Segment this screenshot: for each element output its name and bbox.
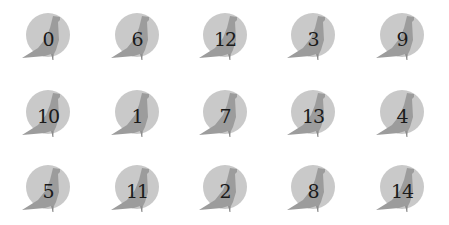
tile-number: 13 (283, 105, 343, 127)
bird-tile-1[interactable]: 1 (107, 87, 167, 147)
bird-tile-12[interactable]: 12 (195, 10, 255, 70)
bird-tile-11[interactable]: 11 (107, 162, 167, 222)
tile-number: 1 (107, 105, 167, 127)
bird-tile-13[interactable]: 13 (283, 87, 343, 147)
bird-tile-4[interactable]: 4 (372, 87, 432, 147)
tile-number: 6 (107, 28, 167, 50)
tile-number: 14 (372, 180, 432, 202)
bird-tile-5[interactable]: 5 (18, 162, 78, 222)
bird-tile-6[interactable]: 6 (107, 10, 167, 70)
bird-tile-0[interactable]: 0 (18, 10, 78, 70)
bird-tile-8[interactable]: 8 (283, 162, 343, 222)
bird-tile-14[interactable]: 14 (372, 162, 432, 222)
tile-number: 4 (372, 105, 432, 127)
icon-grid: 0 6 12 3 9 (0, 0, 449, 225)
tile-number: 11 (107, 180, 167, 202)
tile-number: 12 (195, 28, 255, 50)
tile-number: 8 (283, 180, 343, 202)
tile-number: 10 (18, 105, 78, 127)
tile-number: 3 (283, 28, 343, 50)
bird-tile-9[interactable]: 9 (372, 10, 432, 70)
tile-number: 0 (18, 28, 78, 50)
bird-tile-10[interactable]: 10 (18, 87, 78, 147)
bird-tile-2[interactable]: 2 (195, 162, 255, 222)
tile-number: 5 (18, 180, 78, 202)
tile-number: 9 (372, 28, 432, 50)
tile-number: 7 (195, 105, 255, 127)
bird-tile-3[interactable]: 3 (283, 10, 343, 70)
bird-tile-7[interactable]: 7 (195, 87, 255, 147)
tile-number: 2 (195, 180, 255, 202)
